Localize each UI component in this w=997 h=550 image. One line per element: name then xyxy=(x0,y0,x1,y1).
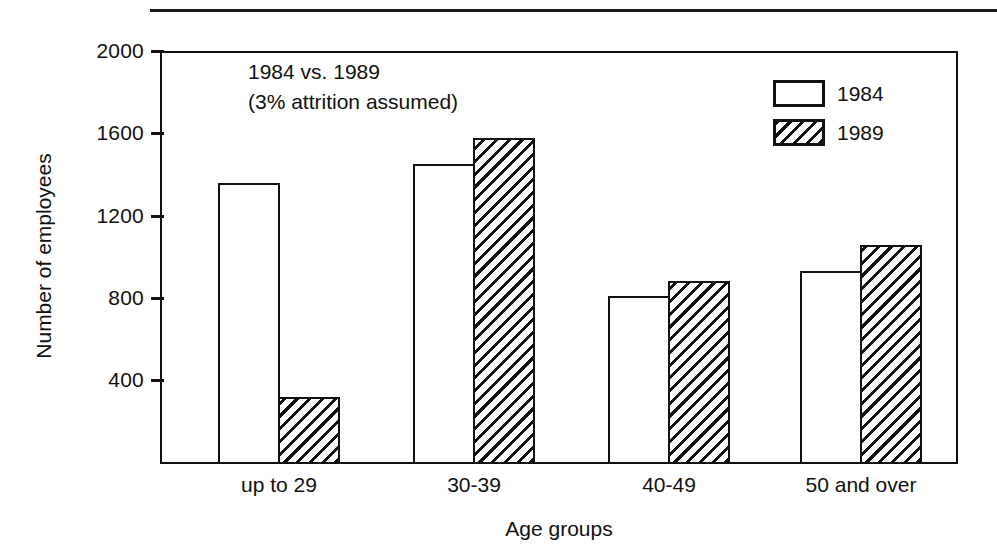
annotation-line-2: (3% attrition assumed) xyxy=(248,87,458,117)
legend-swatch-1989 xyxy=(773,119,825,146)
bar-chart-figure: 2000 1600 1200 800 400 Number of employe… xyxy=(0,0,997,550)
y-tick-mark xyxy=(151,132,164,135)
bar-1989-up-to-29 xyxy=(278,397,340,464)
bar-1984-40-49 xyxy=(608,296,670,464)
bar-1989-40-49 xyxy=(668,281,730,464)
x-tick-label-50-and-over: 50 and over xyxy=(751,474,971,496)
y-tick-label: 2000 xyxy=(24,40,144,61)
bar-1984-50-and-over xyxy=(800,271,862,464)
top-divider-rule xyxy=(150,9,997,12)
x-tick-label-40-49: 40-49 xyxy=(559,474,779,496)
y-tick-mark xyxy=(151,215,164,218)
legend-label-1989: 1989 xyxy=(837,120,884,145)
bar-1984-30-39 xyxy=(413,164,475,464)
x-axis-title: Age groups xyxy=(160,518,958,540)
legend-swatch-1984 xyxy=(773,80,825,107)
legend-label-1984: 1984 xyxy=(837,81,884,106)
bar-1984-up-to-29 xyxy=(218,183,280,464)
y-tick-mark xyxy=(151,50,164,53)
chart-annotation: 1984 vs. 1989 (3% attrition assumed) xyxy=(248,57,458,117)
x-tick-label-up-to-29: up to 29 xyxy=(169,474,389,496)
x-tick-label-30-39: 30-39 xyxy=(364,474,584,496)
y-tick-mark xyxy=(151,297,164,300)
bar-1989-30-39 xyxy=(473,138,535,464)
y-tick-mark xyxy=(151,379,164,382)
bar-1989-50-and-over xyxy=(860,245,922,464)
annotation-line-1: 1984 vs. 1989 xyxy=(248,57,458,87)
y-axis-title: Number of employees xyxy=(33,106,55,406)
